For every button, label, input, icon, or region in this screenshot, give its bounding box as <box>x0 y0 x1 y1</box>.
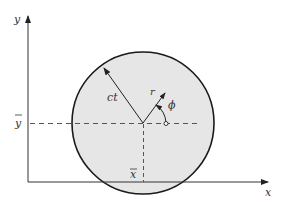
svg-text:y: y <box>14 117 22 130</box>
phi-label: ϕ <box>168 99 176 112</box>
x-bar-label: x <box>130 168 137 181</box>
circle-diagram: y x x ct r ϕ y x <box>0 0 287 206</box>
svg-text:x: x <box>130 168 137 181</box>
phi-reference-point <box>164 122 168 126</box>
y-bar-label: y <box>14 115 22 130</box>
x-axis-label-end: x <box>265 186 272 199</box>
radius-ct-label: ct <box>107 91 118 104</box>
y-axis-label: y <box>13 13 21 26</box>
